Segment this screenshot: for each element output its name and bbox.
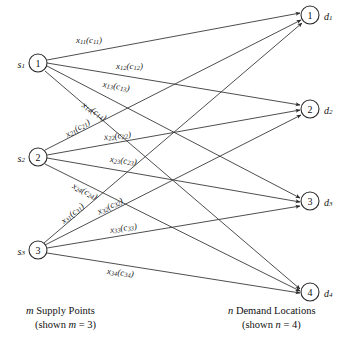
supply-caption: m Supply Points (shown m = 3) [26, 304, 96, 332]
edge-label-e23: x23(c23) [108, 154, 137, 167]
edge-label-e12: x12(c12) [115, 61, 143, 71]
network-diagram-svg: x11(c11)x12(c12)x13(c13)x14(c14)x21(c21)… [0, 0, 353, 343]
node-number-s2: 2 [36, 152, 41, 163]
edge-label-e22: x22(c22) [102, 129, 131, 142]
edge-s3-d3 [47, 206, 300, 248]
supply-caption-shown-pre: (shown [35, 319, 69, 330]
supply-caption-line2: (shown m = 3) [26, 318, 96, 332]
edge-s3-d4 [47, 253, 300, 293]
node-d4[interactable]: 4d4 [301, 283, 333, 301]
demand-caption-line2: (shown n = 4) [228, 318, 315, 332]
node-d3[interactable]: 3d3 [301, 192, 333, 210]
node-number-s1: 1 [36, 58, 41, 69]
edge-label-e11: x11(c11) [75, 35, 102, 45]
edge-s1-d2 [47, 63, 300, 105]
node-label-s1: s1 [18, 58, 25, 69]
node-s3[interactable]: 3s3 [18, 241, 47, 259]
demand-caption-text: Demand Locations [233, 305, 315, 316]
demand-caption-line1: n Demand Locations [228, 304, 315, 318]
node-label-d3: d3 [324, 196, 333, 207]
edge-label-e32: x32(c32) [95, 195, 125, 217]
edges-group [44, 13, 302, 293]
node-number-d3: 3 [308, 196, 313, 207]
edge-label-e33: x33(c33) [108, 221, 137, 235]
edge-s3-d2 [45, 115, 301, 245]
node-label-d2: d2 [324, 104, 333, 115]
supply-caption-m-symbol: m [26, 305, 34, 316]
supply-caption-text: Supply Points [34, 305, 95, 316]
nodes-group: 1s12s23s31d12d23d34d4 [18, 6, 333, 301]
node-label-s3: s3 [18, 245, 26, 256]
node-label-s2: s2 [18, 152, 26, 163]
demand-caption-shown-post: = 4) [281, 319, 301, 330]
node-s1[interactable]: 1s1 [18, 54, 47, 72]
node-number-d2: 2 [308, 104, 313, 115]
node-number-d1: 1 [308, 10, 313, 21]
edge-s1-d1 [47, 13, 300, 60]
supply-caption-shown-post: = 3) [76, 319, 96, 330]
supply-caption-line1: m Supply Points [26, 304, 96, 318]
node-label-d1: d1 [324, 10, 333, 21]
node-d2[interactable]: 2d2 [301, 100, 333, 118]
edge-label-e34: x34(c34) [105, 266, 134, 279]
node-d1[interactable]: 1d1 [301, 6, 333, 24]
node-number-d4: 4 [308, 287, 313, 298]
node-number-s3: 3 [36, 245, 41, 256]
demand-caption: n Demand Locations (shown n = 4) [228, 304, 315, 332]
edge-label-e31: x31(c31) [58, 201, 86, 227]
node-label-d4: d4 [324, 287, 333, 298]
demand-caption-shown-pre: (shown [242, 319, 276, 330]
edge-label-e13: x13(c13) [101, 79, 130, 93]
node-s2[interactable]: 2s2 [18, 148, 47, 166]
transportation-network-figure: x11(c11)x12(c12)x13(c13)x14(c14)x21(c21)… [0, 0, 353, 343]
supply-caption-shown-m: m [69, 319, 77, 330]
